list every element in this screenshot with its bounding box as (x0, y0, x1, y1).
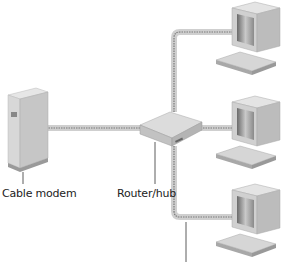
router-hub-label: Router/hub (117, 187, 176, 200)
router-to-computer-1 (174, 32, 234, 112)
network-diagram (0, 0, 283, 266)
computer-icon (216, 184, 280, 257)
cable-modem-label: Cable modem (2, 187, 76, 200)
computer-icon (216, 2, 280, 75)
cable-modem-icon (8, 88, 48, 172)
router-icon (140, 112, 202, 146)
computer-icon (216, 96, 280, 169)
